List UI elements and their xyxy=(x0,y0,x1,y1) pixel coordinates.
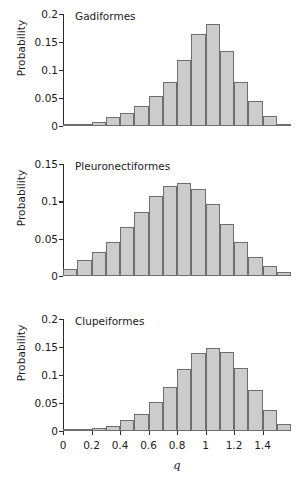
histogram-bar xyxy=(177,369,191,431)
x-tick-label: 0 xyxy=(60,440,67,451)
y-tick-mark xyxy=(59,375,63,376)
x-tick-mark xyxy=(63,431,64,435)
panel-title: Pleuronectiformes xyxy=(75,161,170,172)
histogram-bar xyxy=(106,426,120,431)
histogram-bar xyxy=(277,124,291,126)
y-tick-mark xyxy=(59,276,63,277)
histogram-bar xyxy=(120,420,134,431)
histogram-bar xyxy=(63,124,77,126)
panel-title: Gadiformes xyxy=(75,11,136,22)
plot-area: Gadiformes 00.050.10.150.2 xyxy=(63,14,291,126)
y-tick-label: 0.05 xyxy=(35,398,58,409)
x-tick-label: 0.6 xyxy=(140,440,157,451)
y-axis xyxy=(63,164,64,276)
plot-area: Pleuronectiformes 00.050.10.15 xyxy=(63,164,291,276)
histogram-bar xyxy=(163,82,177,126)
y-tick-mark xyxy=(59,42,63,43)
histogram-bar xyxy=(220,51,234,126)
histogram-bar xyxy=(206,204,220,276)
histogram-bar xyxy=(134,106,148,126)
histogram-bar xyxy=(234,82,248,126)
histogram-bar xyxy=(149,96,163,126)
x-tick-mark xyxy=(120,431,121,435)
plot-area: Clupeiformes 00.050.10.150.200.20.40.60.… xyxy=(63,319,291,431)
histogram-bar xyxy=(234,368,248,431)
y-tick-label: 0.2 xyxy=(41,314,58,325)
x-tick-label: 0.4 xyxy=(112,440,129,451)
panel-pleuronectiformes: Probability Pleuronectiformes 00.050.10.… xyxy=(0,156,303,304)
y-tick-label: 0.1 xyxy=(41,370,58,381)
y-tick-label: 0.2 xyxy=(41,9,58,20)
x-tick-mark xyxy=(263,431,264,435)
y-tick-label: 0.05 xyxy=(35,93,58,104)
y-tick-label: 0 xyxy=(51,426,58,437)
histogram-bar xyxy=(248,257,262,276)
y-tick-mark xyxy=(59,70,63,71)
histogram-bar xyxy=(77,429,91,431)
y-tick-label: 0.15 xyxy=(35,37,58,48)
y-tick-mark xyxy=(59,239,63,240)
histogram-bar xyxy=(248,101,262,126)
y-tick-mark xyxy=(59,126,63,127)
histogram-bar xyxy=(263,410,277,431)
histogram-bar xyxy=(277,272,291,276)
histogram-bar xyxy=(92,428,106,431)
histogram-bar xyxy=(191,34,205,126)
histogram-bar xyxy=(206,348,220,431)
x-axis-label: q xyxy=(63,458,291,472)
y-tick-mark xyxy=(59,98,63,99)
histogram-bar xyxy=(106,117,120,126)
histogram-bar xyxy=(191,189,205,276)
y-axis xyxy=(63,14,64,126)
histogram-bar xyxy=(177,60,191,126)
histogram-bar xyxy=(77,260,91,276)
histogram-figure: Probability Gadiformes 00.050.10.150.2 P… xyxy=(0,0,303,477)
histogram-bar xyxy=(92,122,106,126)
histogram-bar xyxy=(248,390,262,431)
histogram-bar xyxy=(149,196,163,276)
histogram-bar xyxy=(77,124,91,126)
y-tick-label: 0.05 xyxy=(35,233,58,244)
x-tick-label: 0.8 xyxy=(169,440,186,451)
histogram-bar xyxy=(191,353,205,431)
y-tick-mark xyxy=(59,347,63,348)
x-tick-label: 1.2 xyxy=(226,440,243,451)
x-tick-mark xyxy=(177,431,178,435)
histogram-bar xyxy=(263,266,277,276)
histogram-bar xyxy=(120,113,134,126)
panel-clupeiformes: Probability Clupeiformes 00.050.10.150.2… xyxy=(0,311,303,477)
histogram-bar xyxy=(134,212,148,276)
y-tick-mark xyxy=(59,403,63,404)
x-tick-label: 1 xyxy=(202,440,209,451)
y-tick-label: 0.1 xyxy=(41,65,58,76)
histogram-bar xyxy=(263,116,277,126)
histogram-bar xyxy=(163,186,177,276)
histogram-bar xyxy=(220,224,234,276)
y-tick-mark xyxy=(59,319,63,320)
y-axis-label: Probability xyxy=(15,0,27,98)
histogram-bar xyxy=(63,269,77,276)
x-tick-mark xyxy=(92,431,93,435)
histogram-bar xyxy=(134,414,148,431)
histogram-bar xyxy=(177,183,191,276)
y-tick-mark xyxy=(59,14,63,15)
histogram-bar xyxy=(206,24,220,126)
histogram-bar xyxy=(234,242,248,276)
x-tick-mark xyxy=(149,431,150,435)
histogram-bar xyxy=(163,387,177,431)
y-tick-label: 0 xyxy=(51,121,58,132)
x-tick-mark xyxy=(206,431,207,435)
histogram-bar xyxy=(120,227,134,276)
y-tick-label: 0.15 xyxy=(35,159,58,170)
panel-gadiformes: Probability Gadiformes 00.050.10.150.2 xyxy=(0,6,303,154)
y-axis xyxy=(63,319,64,431)
panel-title: Clupeiformes xyxy=(75,316,144,327)
histogram-bar xyxy=(106,242,120,276)
y-axis-label: Probability xyxy=(15,148,27,248)
x-tick-label: 1.4 xyxy=(254,440,271,451)
y-tick-label: 0 xyxy=(51,271,58,282)
y-axis-label: Probability xyxy=(15,303,27,403)
y-tick-label: 0.1 xyxy=(41,196,58,207)
histogram-bar xyxy=(92,252,106,276)
x-tick-mark xyxy=(234,431,235,435)
